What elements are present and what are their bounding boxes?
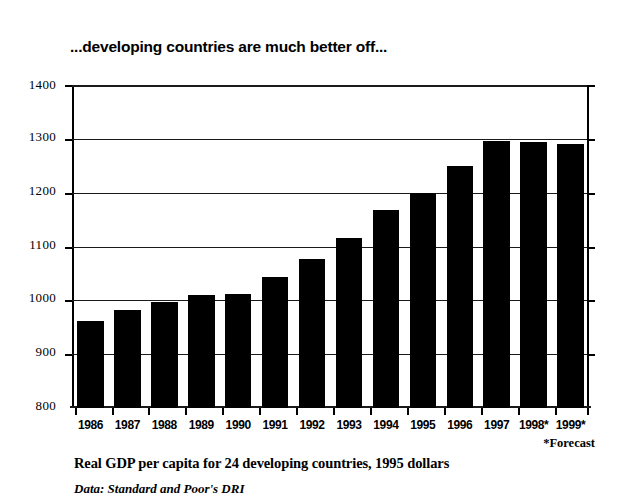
x-tick-mark-1991: [259, 408, 261, 415]
y-tick-mark-1100-left: [65, 247, 72, 249]
bar-1995[interactable]: [410, 193, 437, 408]
bar-1986[interactable]: [77, 321, 104, 408]
y-tick-label-1300: 1300: [29, 129, 56, 145]
x-tick-mark-end: [587, 408, 589, 415]
x-axis-label-1993: 1993: [331, 418, 368, 432]
bar-1988[interactable]: [151, 302, 178, 408]
bar-1993[interactable]: [336, 238, 363, 408]
x-axis-label-1991: 1991: [257, 418, 294, 432]
x-axis-label-1997: 1997: [478, 418, 515, 432]
bar-1989[interactable]: [188, 295, 215, 408]
x-axis-label-1999: 1999*: [552, 418, 589, 432]
x-tick-mark-1992: [296, 408, 298, 415]
x-tick-mark-1989: [185, 408, 187, 415]
x-axis-label-1986: 1986: [72, 418, 109, 432]
bar-1996[interactable]: [447, 166, 474, 408]
bar-1987[interactable]: [114, 310, 141, 408]
bar-1994[interactable]: [373, 210, 400, 408]
y-tick-mark-1400-left: [65, 85, 72, 87]
y-tick-mark-900-left: [65, 354, 72, 356]
bar-1997[interactable]: [483, 141, 510, 409]
x-tick-mark-1998: [518, 408, 520, 415]
x-axis-label-1996: 1996: [441, 418, 478, 432]
chart-title: ...developing countries are much better …: [70, 38, 387, 56]
x-tick-mark-1993: [333, 408, 335, 415]
x-tick-mark-1997: [481, 408, 483, 415]
x-axis-label-1992: 1992: [294, 418, 331, 432]
chart-subtitle: Real GDP per capita for 24 developing co…: [74, 455, 449, 472]
bar-series: [72, 85, 589, 408]
plot-area: [72, 85, 589, 408]
y-tick-mark-1000-left: [65, 300, 72, 302]
y-tick-label-900: 900: [36, 344, 56, 360]
x-axis-label-1988: 1988: [146, 418, 183, 432]
x-tick-mark-1996: [444, 408, 446, 415]
bar-1992[interactable]: [299, 259, 326, 408]
x-tick-mark-1994: [370, 408, 372, 415]
x-tick-mark-1988: [148, 408, 150, 415]
x-axis-label-1989: 1989: [183, 418, 220, 432]
x-tick-mark-1986: [75, 408, 77, 415]
x-tick-mark-1999: [555, 408, 557, 415]
bar-1999[interactable]: [557, 144, 584, 408]
chart-source: Data: Standard and Poor's DRI: [74, 481, 244, 497]
y-tick-label-1200: 1200: [29, 183, 56, 199]
x-axis-label-1995: 1995: [404, 418, 441, 432]
x-tick-mark-1995: [407, 408, 409, 415]
y-tick-label-1000: 1000: [29, 290, 56, 306]
x-tick-mark-1990: [222, 408, 224, 415]
y-tick-label-1100: 1100: [29, 237, 56, 253]
y-tick-mark-1300-left: [65, 139, 72, 141]
forecast-footnote: *Forecast: [430, 436, 595, 451]
bar-1991[interactable]: [262, 277, 289, 408]
x-tick-mark-1987: [112, 408, 114, 415]
y-tick-label-1400: 1400: [29, 77, 56, 93]
y-axis-labels: 1400 1300 1200 1100 1000 900 800: [0, 85, 64, 408]
x-axis-label-1994: 1994: [367, 418, 404, 432]
y-tick-mark-1200-left: [65, 193, 72, 195]
x-axis-labels: 1986198719881989199019911992199319941995…: [72, 418, 589, 436]
bar-1998[interactable]: [520, 142, 547, 408]
chart-figure: ...developing countries are much better …: [0, 0, 633, 502]
x-axis-label-1998: 1998*: [515, 418, 552, 432]
x-axis-label-1990: 1990: [220, 418, 257, 432]
y-tick-label-800: 800: [36, 398, 56, 414]
bar-1990[interactable]: [225, 294, 252, 408]
x-axis-label-1987: 1987: [109, 418, 146, 432]
